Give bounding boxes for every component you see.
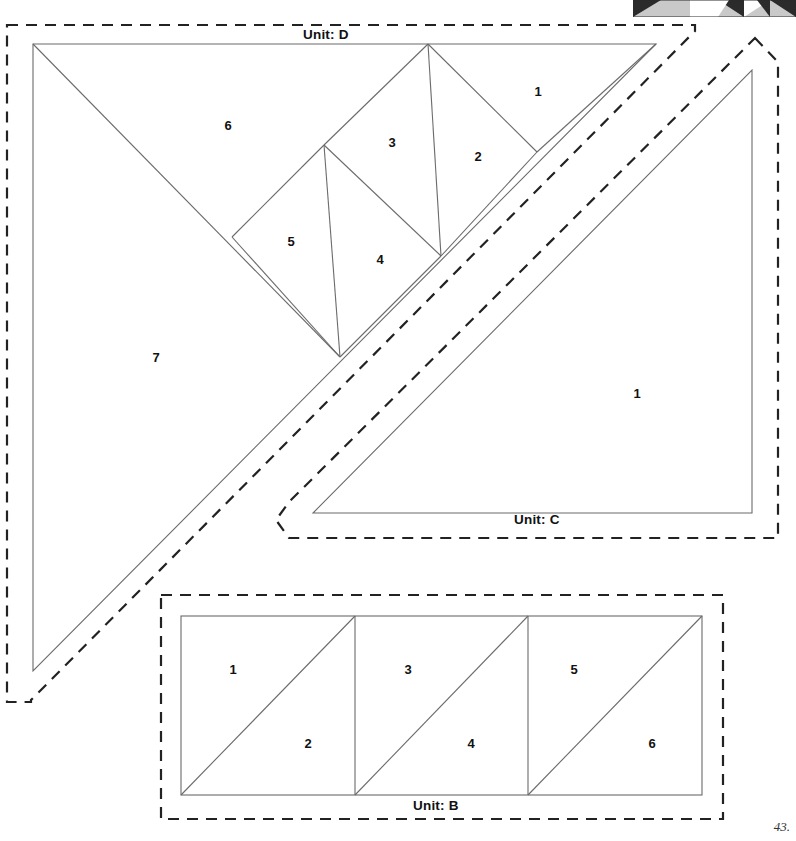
unit-c-piece-1: 1 [633, 386, 640, 401]
unit-label-d: Unit: D [303, 27, 349, 42]
unit-b-piece-3: 3 [404, 662, 411, 677]
unit-d-piece-4: 4 [376, 252, 383, 267]
unit-b-piece-1: 1 [229, 662, 236, 677]
unit-d-piece-7: 7 [152, 350, 159, 365]
unit-d-piece-2: 2 [474, 149, 481, 164]
unit-b-drawing [0, 0, 796, 841]
unit-b-piece-5: 5 [570, 662, 577, 677]
unit-b-piece-6: 6 [648, 736, 655, 751]
unit-d-piece-3: 3 [388, 135, 395, 150]
page-number: 43. [774, 819, 790, 835]
unit-label-c: Unit: C [514, 512, 560, 527]
unit-d-piece-5: 5 [287, 234, 294, 249]
unit-b-piece-2: 2 [304, 736, 311, 751]
pattern-sheet: Unit: D Unit: C Unit: B 1 2 3 4 5 6 7 1 … [0, 0, 796, 841]
unit-b-piece-4: 4 [467, 736, 474, 751]
unit-d-piece-6: 6 [224, 118, 231, 133]
unit-d-piece-1: 1 [534, 84, 541, 99]
unit-label-b: Unit: B [413, 798, 459, 813]
